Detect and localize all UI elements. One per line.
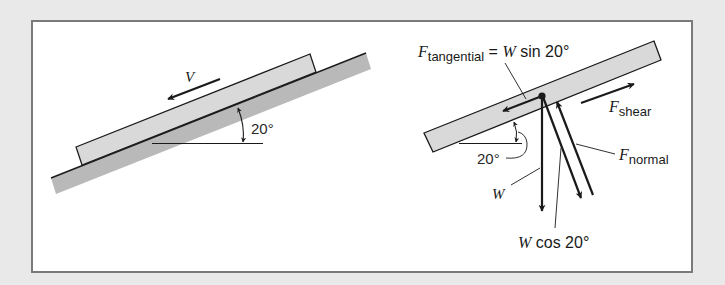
tangential-force-label: Ftangential = W sin 20°: [417, 43, 569, 64]
sliding-block: [76, 54, 316, 165]
angle-label: 20°: [251, 120, 274, 137]
left-panel: V 20°: [51, 53, 371, 194]
weight-label: W: [492, 186, 506, 202]
angle-label: 20°: [477, 150, 500, 167]
inclined-plane-diagram: V 20° Ftangential = W sin 20° Fshear: [0, 0, 725, 285]
angle-arc: [514, 122, 517, 142]
normal-force-leader-line: [576, 144, 615, 154]
velocity-label: V: [185, 69, 196, 85]
shear-force-label: Fshear: [608, 98, 652, 119]
normal-component-leader-line: [555, 148, 561, 228]
center-of-mass-dot: [538, 92, 545, 99]
inclined-surface-edge: [51, 53, 366, 178]
normal-component-label: W cos 20°: [518, 234, 589, 251]
tangential-leader-line: [505, 63, 526, 99]
inclined-surface: [51, 53, 371, 194]
right-panel: Ftangential = W sin 20° Fshear Fnormal 2…: [417, 41, 669, 251]
normal-force-label: Fnormal: [618, 146, 669, 167]
weight-leader-line: [511, 168, 540, 185]
